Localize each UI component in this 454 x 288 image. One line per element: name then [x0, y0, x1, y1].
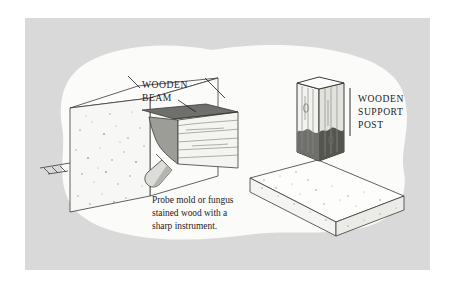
caption-line2: stained wood with a: [152, 208, 228, 218]
illustration-root: WOODEN BEAM WOODEN SUPPORT POST Probe mo…: [0, 0, 454, 288]
illustration-canvas: WOODEN BEAM WOODEN SUPPORT POST Probe mo…: [0, 0, 454, 288]
caption-line3: sharp instrument.: [152, 221, 217, 231]
foundation-wall-front-face: [70, 98, 150, 212]
beam-label-line1: WOODEN: [142, 79, 188, 90]
beam-label-line2: BEAM: [142, 92, 172, 103]
caption-line1: Probe mold or fungus: [152, 195, 234, 205]
post-label-line1: WOODEN: [358, 93, 404, 104]
post-label-line3: POST: [358, 119, 384, 130]
post-label-line2: SUPPORT: [358, 106, 403, 117]
